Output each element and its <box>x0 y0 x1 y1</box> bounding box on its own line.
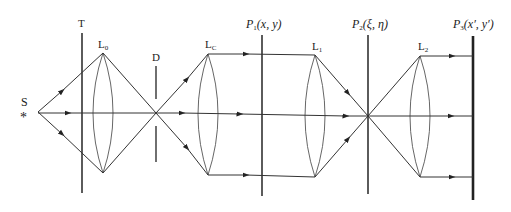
rays <box>38 53 473 177</box>
label-aperture-d: D <box>152 51 160 63</box>
label-source: S <box>21 95 28 109</box>
label-lens-l1: L1 <box>312 40 323 54</box>
label-lens-l0: L0 <box>98 38 109 52</box>
optical-diagram: S * T L0 D LC P1(x, y) L1 P2(ξ, η) L2 P3… <box>0 0 511 212</box>
label-plane-p2: P2(ξ, η) <box>351 17 388 32</box>
label-plane-p1: P1(x, y) <box>245 17 282 32</box>
lens-lc <box>198 54 218 175</box>
label-plane-p3: P3(x′, y′) <box>452 17 494 32</box>
label-lens-l2: L2 <box>418 40 429 54</box>
label-stop-t: T <box>78 17 85 29</box>
label-lens-lc: LC <box>205 38 217 52</box>
source-star-icon: * <box>20 110 27 125</box>
